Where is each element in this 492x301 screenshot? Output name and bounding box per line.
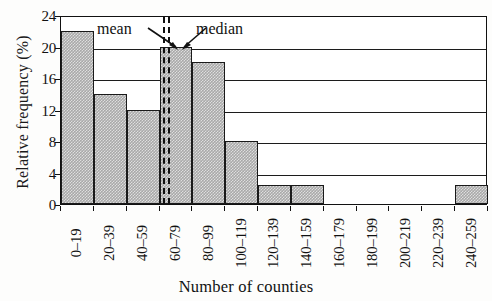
x-tick-mark [421, 206, 422, 211]
x-tick-label: 200–219 [396, 218, 413, 268]
gridline [61, 80, 486, 81]
x-tick-label: 180–199 [364, 218, 381, 268]
x-tick-label: 0–19 [68, 229, 85, 258]
median-annotation-label: median [196, 20, 243, 38]
y-axis-tick-labels: 04812162024 [22, 0, 56, 301]
bar [455, 185, 488, 204]
x-tick-mark [191, 206, 192, 211]
x-tick-mark [290, 206, 291, 211]
x-tick-label: 100–119 [232, 218, 249, 268]
x-tick-mark [257, 206, 258, 211]
bar [258, 185, 291, 204]
x-axis-title: Number of counties [0, 277, 492, 297]
x-tick-mark [60, 206, 61, 211]
x-tick-mark [454, 206, 455, 211]
x-tick-mark [224, 206, 225, 211]
x-tick-group: 180–199 [356, 207, 389, 277]
x-tick-label: 80–99 [199, 225, 216, 261]
x-tick-label: 120–139 [265, 218, 282, 268]
bar [192, 62, 225, 204]
y-tick-label: 16 [41, 71, 56, 88]
bar [127, 110, 160, 205]
x-tick-group: 40–59 [126, 207, 159, 277]
x-tick-label: 20–39 [101, 225, 118, 261]
x-tick-mark [159, 206, 160, 211]
x-tick-group: 80–99 [191, 207, 224, 277]
x-tick-group: 0–19 [60, 207, 93, 277]
x-tick-label: 220–239 [429, 218, 446, 268]
x-tick-mark [388, 206, 389, 211]
x-tick-group: 220–239 [421, 207, 454, 277]
mean-annotation-label: mean [97, 20, 132, 38]
y-tick-label: 12 [41, 102, 56, 119]
y-tick-label: 24 [41, 8, 56, 25]
x-tick-group: 20–39 [93, 207, 126, 277]
x-tick-label: 40–59 [134, 225, 151, 261]
bar [225, 141, 258, 204]
y-tick-label: 20 [41, 39, 56, 56]
bar [291, 185, 324, 204]
histogram-figure: Relative frequency (%) 04812162024 mean … [0, 0, 492, 301]
plot-area [60, 16, 487, 205]
gridline [61, 49, 486, 50]
x-tick-group: 120–139 [257, 207, 290, 277]
median-line [168, 17, 170, 204]
x-tick-mark [126, 206, 127, 211]
x-tick-mark [93, 206, 94, 211]
x-tick-label: 140–159 [298, 218, 315, 268]
x-tick-mark [323, 206, 324, 211]
x-tick-label: 160–179 [331, 218, 348, 268]
x-tick-group: 160–179 [323, 207, 356, 277]
bar [94, 94, 127, 204]
x-tick-mark [487, 206, 488, 211]
x-tick-mark [356, 206, 357, 211]
x-tick-group: 200–219 [388, 207, 421, 277]
x-tick-label: 60–79 [166, 225, 183, 261]
bar [61, 31, 94, 204]
x-tick-label: 240–259 [462, 218, 479, 268]
x-tick-group: 100–119 [224, 207, 257, 277]
x-axis-tick-labels: 0–1920–3940–5960–7980–99100–119120–13914… [60, 207, 487, 277]
x-tick-group: 140–159 [290, 207, 323, 277]
x-tick-group: 240–259 [454, 207, 487, 277]
x-tick-group: 60–79 [159, 207, 192, 277]
mean-line [163, 17, 165, 204]
